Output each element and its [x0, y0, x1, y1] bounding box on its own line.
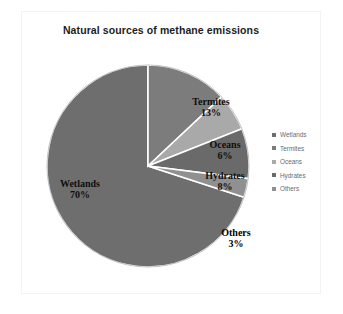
legend-item-wetlands: Wetlands: [272, 128, 334, 142]
page-title: Natural sources of methane emissions: [21, 24, 301, 36]
legend-item-others: Others: [272, 182, 334, 196]
slice-label-termites-name: Termites: [192, 96, 229, 107]
slice-label-termites: Termites 13%: [178, 96, 244, 118]
slice-label-oceans: Oceans 6%: [196, 139, 254, 161]
legend-item-label: Others: [280, 185, 299, 192]
legend-swatch-icon: [272, 173, 276, 177]
legend-item-label: Oceans: [280, 158, 302, 165]
legend-item-hydrates: Hydrates: [272, 169, 334, 183]
slice-label-hydrates-name: Hydrates: [205, 170, 244, 181]
legend-swatch-icon: [272, 133, 276, 137]
legend-item-label: Wetlands: [280, 131, 307, 138]
slice-label-wetlands-percent: 70%: [44, 189, 116, 200]
slice-label-hydrates-percent: 8%: [192, 181, 258, 192]
legend-item-label: Termites: [280, 145, 304, 152]
legend-swatch-icon: [272, 187, 276, 191]
slice-label-termites-percent: 13%: [178, 107, 244, 118]
slice-label-others-name: Others: [221, 227, 250, 238]
legend-swatch-icon: [272, 146, 276, 150]
chart-screenshot: Natural sources of methane emissions Wet…: [0, 0, 343, 314]
slice-label-oceans-percent: 6%: [196, 150, 254, 161]
legend-swatch-icon: [272, 160, 276, 164]
slice-label-wetlands: Wetlands 70%: [44, 178, 116, 200]
slice-label-hydrates: Hydrates 8%: [192, 170, 258, 192]
legend-item-oceans: Oceans: [272, 155, 334, 169]
slice-label-oceans-name: Oceans: [209, 139, 240, 150]
legend-item-label: Hydrates: [280, 172, 306, 179]
slice-label-others-percent: 3%: [210, 238, 262, 249]
slice-label-wetlands-name: Wetlands: [60, 178, 100, 189]
chart-legend: WetlandsTermitesOceansHydratesOthers: [272, 128, 334, 196]
slice-label-others: Others 3%: [210, 227, 262, 249]
legend-item-termites: Termites: [272, 142, 334, 156]
